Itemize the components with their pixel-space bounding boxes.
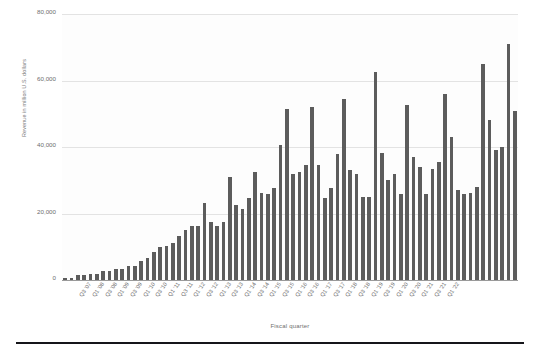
bar [507,44,511,280]
bar [500,147,504,280]
bar [393,174,397,280]
bar [133,266,137,280]
bar [469,193,473,280]
x-tick-label: Q1 '17 [319,281,333,298]
bar [355,174,359,280]
y-tick-label: 20,000 [6,208,56,215]
plot-area [62,14,518,280]
x-axis-ticks: Q3 '07Q1 '08Q3 '08Q1 '09Q3 '09Q1 '10Q3 '… [62,281,518,321]
bar [272,188,276,280]
bar [108,271,112,280]
bar [298,172,302,280]
bar [380,153,384,280]
y-axis-title: Revenue in million U.S. dollars [21,18,27,178]
bar [329,188,333,280]
footer-divider [16,342,524,344]
bar [196,226,200,280]
x-tick-label: Q1 '10 [141,281,155,298]
bar [279,145,283,280]
bar [114,269,118,280]
bar [443,94,447,280]
bar [424,194,428,280]
bar [513,111,517,280]
bar [399,194,403,280]
bar [323,198,327,280]
y-tick-label: 0 [6,274,56,281]
bar [348,170,352,280]
bar [386,180,390,280]
bar [481,64,485,280]
bar [437,162,441,280]
bar [405,105,409,280]
bar [177,236,181,280]
bar [488,120,492,280]
bar [184,230,188,280]
bar [247,198,251,280]
bar [95,274,99,280]
x-tick-label: Q3 '18 [357,281,371,298]
y-tick-label: 80,000 [6,8,56,15]
bar [361,197,365,280]
x-tick-label: Q3 '11 [179,281,193,297]
x-tick-label: Q3 '07 [78,281,92,298]
bar [70,278,74,280]
x-tick-label: Q1 '08 [91,281,105,298]
bar [165,246,169,280]
x-tick-label: Q3 '17 [331,281,345,298]
x-tick-label: Q1 '12 [192,281,206,298]
x-tick-label: Q3 '20 [407,281,421,298]
bar [209,222,213,280]
chart-figure: Revenue in million U.S. dollars Q3 '07Q1… [0,0,540,356]
bar [120,269,124,280]
x-tick-label: Q3 '21 [433,281,447,298]
x-tick-label: Q1 '14 [243,281,257,298]
x-tick-label: Q3 '09 [129,281,143,298]
bar [222,222,226,280]
bar [260,193,264,280]
x-tick-label: Q1 '22 [445,281,459,298]
bar [317,165,321,280]
bar [215,226,219,280]
x-tick-label: Q3 '15 [281,281,295,298]
x-tick-label: Q1 '20 [395,281,409,298]
x-tick-label: Q1 '19 [369,281,383,298]
bar [494,150,498,280]
x-tick-label: Q3 '08 [103,281,117,298]
bar [146,258,150,280]
bar [171,243,175,280]
bar [431,169,435,280]
bar [450,137,454,280]
bar [310,107,314,280]
x-tick-label: Q1 '11 [167,281,181,297]
bar [291,174,295,280]
bar [367,197,371,280]
bar [234,205,238,280]
x-tick-label: Q1 '16 [293,281,307,298]
bar [266,194,270,280]
bar [76,275,80,280]
bar [412,157,416,280]
bar [285,109,289,280]
y-tick-label: 40,000 [6,141,56,148]
bar [253,172,257,280]
bar [374,72,378,280]
x-tick-label: Q3 '14 [255,281,269,298]
bar-series [62,14,518,280]
bar [190,226,194,280]
bar [456,190,460,280]
bar [418,167,422,280]
bar [127,266,131,280]
bar [304,165,308,280]
bar [462,194,466,280]
bar [82,275,86,280]
x-tick-label: Q3 '12 [205,281,219,298]
bar [152,252,156,280]
y-tick-label: 60,000 [6,75,56,82]
bar [139,261,143,280]
x-axis-title: Fiscal quarter [62,323,518,329]
bar [158,247,162,280]
x-tick-label: Q1 '13 [217,281,231,298]
bar [89,274,93,280]
bar [101,271,105,280]
bar [228,177,232,280]
